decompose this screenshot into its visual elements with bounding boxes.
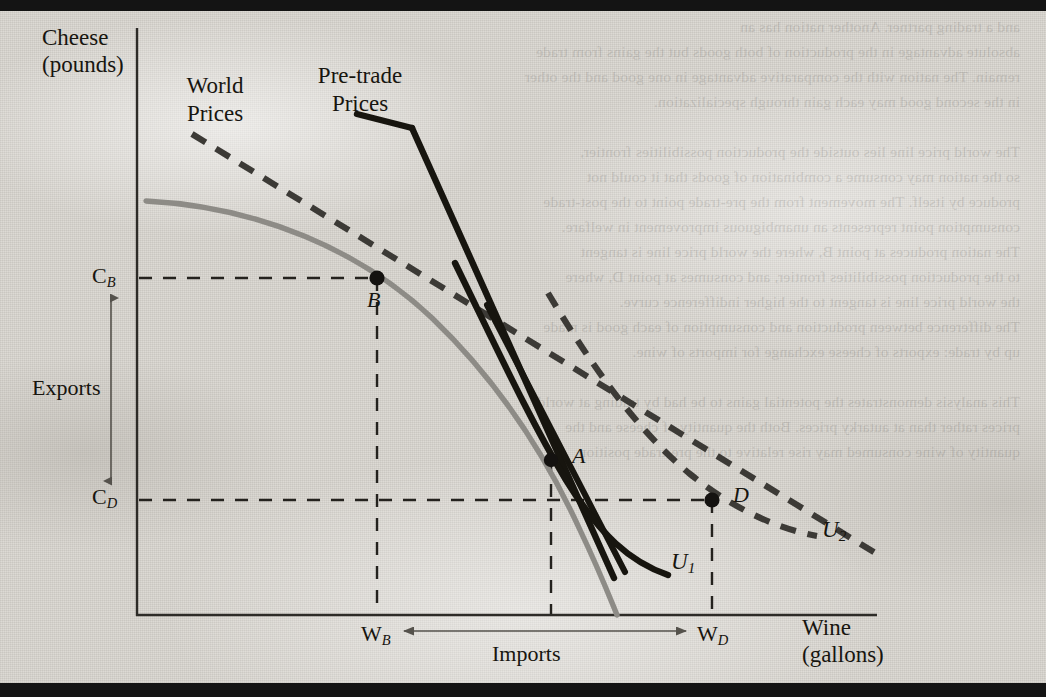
pre-trade-prices-annotation: Pre-trade Prices — [290, 62, 430, 118]
u2-curve-label-base: U — [822, 517, 839, 542]
figure-page: and a trading partner. Another nation ha… — [0, 0, 1046, 697]
pre-trade-prices-line1: Pre-trade — [290, 62, 430, 90]
point-b-label: B — [367, 287, 380, 313]
imports-label: Imports — [492, 641, 560, 667]
ppf-curve — [146, 201, 617, 615]
y-axis-title-line1: Cheese — [42, 24, 124, 51]
world-prices-line1: World — [160, 72, 270, 100]
u2-curve-label: U2 — [822, 517, 846, 545]
point-b-marker — [369, 270, 384, 285]
world-price-line — [192, 134, 877, 554]
tick-label-cheese-b-base: C — [92, 263, 107, 288]
u2-curve-label-sub: 2 — [839, 527, 847, 544]
tick-label-wine-d-sub: D — [718, 632, 728, 648]
tick-label-cheese-b-sub: B — [107, 274, 116, 290]
point-d-marker — [704, 492, 719, 507]
tick-label-wine-d: WD — [697, 621, 728, 649]
point-a-marker — [544, 453, 558, 467]
u1-curve-label-base: U — [671, 549, 688, 574]
tick-label-wine-b-base: W — [361, 621, 382, 646]
u1-curve-label-sub: 1 — [688, 559, 696, 576]
u1-curve-label: U1 — [671, 549, 695, 577]
x-axis-title: Wine (gallons) — [802, 614, 884, 668]
tick-label-cheese-b: CB — [92, 263, 116, 291]
y-axis-title: Cheese (pounds) — [42, 24, 124, 78]
x-axis-title-line1: Wine — [802, 614, 884, 641]
guide-lines — [139, 278, 712, 614]
point-a-label: A — [572, 443, 585, 469]
tick-label-wine-b: WB — [361, 621, 391, 649]
world-prices-line2: Prices — [160, 100, 270, 128]
y-axis-title-line2: (pounds) — [42, 51, 124, 78]
tick-label-wine-b-sub: B — [382, 632, 391, 648]
pre-trade-prices-line2: Prices — [290, 90, 430, 118]
tick-label-cheese-d: CD — [92, 484, 117, 512]
point-d-label: D — [733, 482, 749, 508]
exports-label: Exports — [32, 375, 100, 401]
tick-label-wine-d-base: W — [697, 621, 718, 646]
tick-label-cheese-d-sub: D — [107, 495, 117, 511]
ppf-trade-diagram — [0, 0, 1046, 697]
world-prices-annotation: World Prices — [160, 72, 270, 128]
x-axis-title-line2: (gallons) — [802, 641, 884, 668]
tick-label-cheese-d-base: C — [92, 484, 107, 509]
